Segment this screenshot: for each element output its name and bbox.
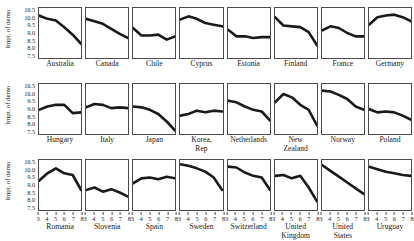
chart-panel: [38, 83, 82, 135]
panel-caption: Finland: [274, 60, 318, 69]
x-tick-group: 345678: [38, 212, 82, 222]
y-tick-label: 10.5: [24, 7, 35, 13]
panel-caption: Switzerland: [227, 223, 271, 240]
x-tick-label: 3: [319, 215, 322, 222]
y-tick-label: 8.0: [27, 45, 35, 51]
y-tick-label: 9.0: [27, 106, 35, 112]
series-line: [39, 8, 81, 58]
chart-panel: [38, 159, 82, 211]
series-line: [39, 160, 81, 210]
panel-caption: Germany: [368, 60, 412, 69]
panel-caption: Italy: [85, 136, 129, 153]
y-tick-label: 9.0: [27, 182, 35, 188]
chart-panel: [85, 7, 129, 59]
x-axis-ticks: 3456783456783456783456783456783456783456…: [38, 212, 412, 222]
panel-caption: Australia: [38, 60, 82, 69]
y-tick-label: 10.0: [24, 167, 35, 173]
series-line: [275, 84, 317, 134]
x-tick-label: 6: [298, 215, 301, 222]
chart-panel: [368, 83, 412, 135]
x-tick-label: 5: [384, 215, 387, 222]
y-tick-label: 8.5: [27, 38, 35, 44]
x-tick-label: 6: [110, 215, 113, 222]
chart-panel: [227, 159, 271, 211]
panel-caption: Cyprus: [179, 60, 223, 69]
series-line: [86, 160, 128, 210]
panel-caption: Slovenia: [85, 223, 129, 240]
x-tick-group: 345678: [274, 212, 318, 222]
panel-caption: Poland: [368, 136, 412, 153]
series-line: [228, 84, 270, 134]
x-tick-label: 5: [243, 215, 246, 222]
x-tick-label: 5: [101, 215, 104, 222]
panel-row-1: Impt. of demo 10.510.09.59.08.58.07.5 Au…: [0, 0, 413, 76]
series-line: [133, 160, 175, 210]
x-tick-label: 4: [187, 215, 190, 222]
chart-panel: [38, 7, 82, 59]
panel-strip: [38, 83, 412, 135]
panel-caption: Romania: [38, 223, 82, 240]
chart-panel: [132, 159, 176, 211]
panel-caption: New Zealand: [274, 136, 318, 153]
series-line: [228, 8, 270, 58]
panel-caption: United Kingdom: [274, 223, 318, 240]
x-tick-label: 3: [131, 215, 134, 222]
chart-panel: [368, 7, 412, 59]
panel-caption: Norway: [321, 136, 365, 153]
x-tick-label: 6: [63, 215, 66, 222]
chart-panel: [132, 83, 176, 135]
x-tick-label: 5: [290, 215, 293, 222]
x-tick-label: 6: [204, 215, 207, 222]
panel-row-3: Impt. of demo 10.510.09.59.08.58.07.5 34…: [0, 152, 413, 241]
x-tick-label: 6: [393, 215, 396, 222]
panel-caption: Uruguay: [368, 223, 412, 240]
panel-caption: Canada: [85, 60, 129, 69]
chart-panel: [179, 159, 223, 211]
y-tick-label: 10.5: [24, 159, 35, 165]
y-axis-ticks: 10.510.09.59.08.58.07.5: [14, 83, 36, 135]
x-tick-label: 3: [366, 215, 369, 222]
y-axis-ticks: 10.510.09.59.08.58.07.5: [14, 7, 36, 59]
x-tick-label: 3: [36, 215, 39, 222]
y-tick-label: 8.5: [27, 114, 35, 120]
series-line: [180, 8, 222, 58]
x-tick-label: 6: [251, 215, 254, 222]
x-tick-group: 345678: [227, 212, 271, 222]
panel-row-2: Impt. of demo 10.510.09.59.08.58.07.5 Hu…: [0, 76, 413, 152]
y-tick-label: 9.5: [27, 22, 35, 28]
series-line: [369, 84, 411, 134]
x-tick-label: 7: [260, 215, 263, 222]
series-line: [39, 84, 81, 134]
x-tick-label: 6: [157, 215, 160, 222]
x-tick-label: 7: [354, 215, 357, 222]
x-tick-label: 4: [281, 215, 284, 222]
x-tick-label: 3: [84, 215, 87, 222]
y-tick-label: 9.5: [27, 98, 35, 104]
panel-caption: Japan: [132, 136, 176, 153]
chart-panel: [321, 83, 365, 135]
x-tick-label: 4: [139, 215, 142, 222]
x-tick-label: 6: [346, 215, 349, 222]
series-line: [180, 160, 222, 210]
y-tick-label: 10.5: [24, 83, 35, 89]
x-tick-label: 4: [45, 215, 48, 222]
series-line: [133, 84, 175, 134]
panel-captions: AustraliaCanadaChileCyprusEstoniaFinland…: [38, 60, 412, 69]
y-axis-ticks: 10.510.09.59.08.58.07.5: [14, 159, 36, 211]
series-line: [275, 8, 317, 58]
x-tick-label: 4: [234, 215, 237, 222]
x-tick-label: 4: [328, 215, 331, 222]
x-tick-label: 5: [54, 215, 57, 222]
y-tick-label: 7.5: [27, 129, 35, 135]
x-tick-label: 3: [178, 215, 181, 222]
panel-caption: Estonia: [227, 60, 271, 69]
x-tick-label: 7: [402, 215, 405, 222]
chart-panel: [85, 159, 129, 211]
panel-caption: Chile: [132, 60, 176, 69]
series-line: [369, 8, 411, 58]
x-tick-label: 3: [272, 215, 275, 222]
series-line: [369, 160, 411, 210]
panel-captions: RomaniaSloveniaSpainSwedenSwitzerlandUni…: [38, 223, 412, 240]
series-line: [86, 8, 128, 58]
